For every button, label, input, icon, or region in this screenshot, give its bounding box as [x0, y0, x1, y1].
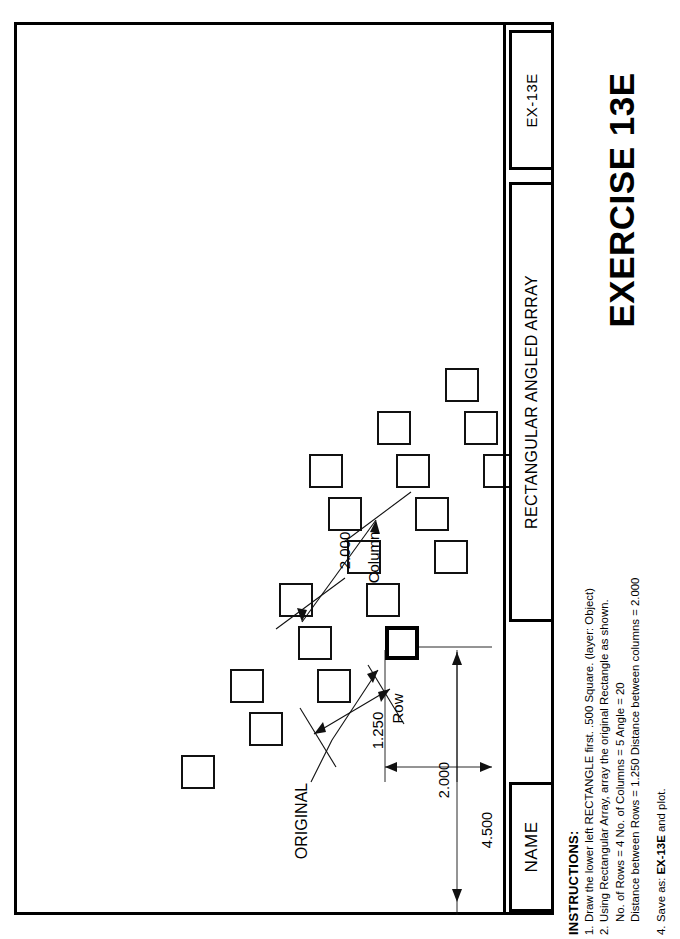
drawing-title-text: RECTANGULAR ANGLED ARRAY [523, 275, 541, 529]
dim-row-label: Row [382, 700, 412, 717]
title-block-drawing-number-cell: EX-13E [509, 30, 554, 170]
dim-column-label: Column [348, 549, 400, 566]
instruction-number: 4. [654, 922, 669, 935]
instructions-list: 1.Draw the lower left RECTANGLE first. .… [582, 545, 669, 935]
instruction-line: 4.Save as: EX-13E and plot. [654, 545, 669, 935]
title-block-drawing-title-cell: RECTANGULAR ANGLED ARRAY [509, 182, 554, 622]
dim-offset-value: 2.000 [426, 772, 462, 788]
exercise-headline: EXERCISE 13E [586, 20, 656, 380]
instruction-line: 1.Draw the lower left RECTANGLE first. .… [582, 545, 597, 935]
drawing-area: 2.000 Column 1.250 Row 2.000 4.500 ORIGI… [14, 22, 503, 915]
drawing-number-text: EX-13E [523, 73, 540, 127]
title-block-name-cell[interactable]: NAME [509, 782, 554, 912]
original-callout-label: ORIGINAL [264, 812, 340, 830]
name-label-text: NAME [522, 821, 542, 872]
instruction-line: 2.Using Rectangular Array, array the ori… [597, 545, 612, 935]
instructions-heading: INSTRUCTIONS: [566, 545, 581, 935]
dim-overall-value: 4.500 [469, 822, 505, 838]
instruction-number: 1. [582, 922, 597, 935]
instructions-block: INSTRUCTIONS: 1.Draw the lower left RECT… [566, 545, 672, 935]
instruction-number: 2. [597, 922, 612, 935]
instruction-line: No. of Rows = 4 No. of Columns = 5 Angle… [613, 545, 628, 935]
title-block: EX-13E RECTANGULAR ANGLED ARRAY NAME [503, 22, 554, 915]
instruction-text: Save as: EX-13E and plot. [655, 788, 667, 922]
instruction-text: Using Rectangular Array, array the origi… [598, 599, 610, 922]
instruction-text: Distance between Rows = 1.250 Distance b… [629, 578, 641, 922]
instruction-text: Draw the lower left RECTANGLE first. .50… [583, 588, 595, 922]
dim-row-value: 1.250 [359, 722, 397, 739]
instruction-line: Distance between Rows = 1.250 Distance b… [628, 545, 643, 935]
instruction-text: No. of Rows = 4 No. of Columns = 5 Angle… [614, 682, 626, 922]
exercise-headline-text: EXERCISE 13E [601, 73, 641, 328]
